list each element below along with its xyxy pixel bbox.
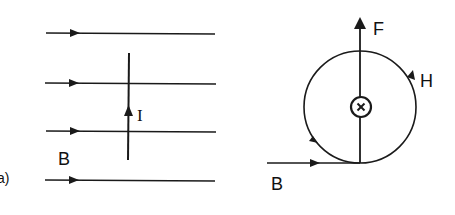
right-panel: [267, 17, 416, 167]
left-panel: [45, 29, 216, 184]
current-label: I: [137, 106, 143, 125]
force-arrow-icon: [354, 17, 366, 29]
force-label: F: [373, 19, 384, 39]
arrow-right-icon: [69, 176, 79, 184]
h-field-label: H: [420, 71, 433, 91]
circle-arrow-icon: [309, 136, 318, 143]
diagram-canvas: I B a) F H B: [0, 0, 455, 215]
field-label-right: B: [271, 174, 283, 194]
field-label-left: B: [58, 149, 70, 169]
arrow-right-icon: [69, 79, 79, 87]
field-line: [45, 79, 216, 87]
arrow-right-icon: [70, 29, 80, 37]
part-label: a): [0, 170, 9, 186]
field-line: [46, 29, 215, 37]
field-line: [46, 127, 216, 135]
current-wire: [124, 53, 133, 160]
arrow-right-icon: [310, 159, 320, 167]
wire-into-page-icon: [351, 97, 371, 117]
arrow-up-icon: [124, 105, 133, 116]
field-line-right: [267, 159, 360, 167]
field-line: [45, 176, 215, 184]
arrow-right-icon: [70, 127, 80, 135]
